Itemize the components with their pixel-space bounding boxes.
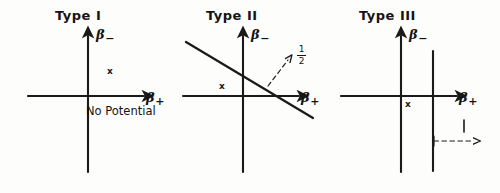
type-3-y-axis-label: β− xyxy=(409,27,427,45)
type-3-y-axis-subscript: − xyxy=(418,32,428,45)
type-3-y-axis-symbol: β xyxy=(409,27,418,42)
type-2-x-axis-symbol: β xyxy=(301,90,310,105)
type-1-title: Type I xyxy=(55,8,101,23)
type-1-note: No Potential xyxy=(86,104,156,118)
type-1-x-axis-subscript: + xyxy=(155,95,165,108)
type-2-slope-numerator: 1 xyxy=(297,45,306,55)
type-3-point-marker: x xyxy=(405,99,411,109)
type-2-boundary-line xyxy=(186,42,313,118)
type-2-point-marker: x xyxy=(219,81,225,91)
type-2-y-axis-subscript: − xyxy=(260,32,270,45)
type-3-x-axis-symbol: β xyxy=(459,90,468,105)
type-1-y-axis-symbol: β xyxy=(96,27,105,42)
type-3-title: Type III xyxy=(359,8,416,23)
type-2-slope-leader-arrow xyxy=(268,60,288,86)
type-2-slope-denominator: 2 xyxy=(297,56,306,66)
type-2-y-axis-symbol: β xyxy=(251,27,260,42)
type-1-y-axis-label: β− xyxy=(96,27,114,45)
type-2-x-axis-subscript: + xyxy=(310,95,320,108)
type-1-point-marker: x xyxy=(107,66,113,76)
type-1-x-axis-symbol: β xyxy=(146,90,155,105)
type-2-slope-fraction: 1 2 xyxy=(297,45,306,66)
figure-canvas: Type I β− β+ x No Potential Type II β− β… xyxy=(0,0,500,193)
type-2-title: Type II xyxy=(206,8,258,23)
type-2-y-axis-label: β− xyxy=(251,27,269,45)
type-3-x-axis-subscript: + xyxy=(468,95,478,108)
type-3-x-axis-label: β+ xyxy=(459,90,477,108)
type-2-x-axis-label: β+ xyxy=(301,90,319,108)
type-2-axes xyxy=(183,36,313,172)
type-1-y-axis-subscript: − xyxy=(105,32,115,45)
